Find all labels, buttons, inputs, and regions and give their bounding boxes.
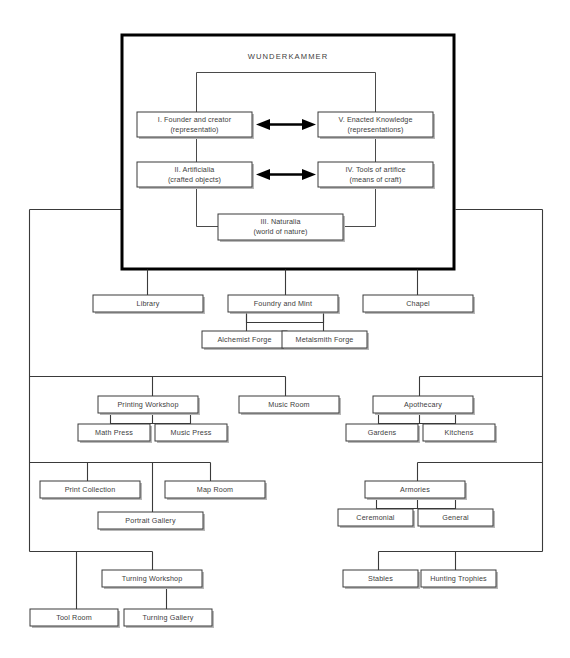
core-link-tools-naturalia <box>345 188 376 227</box>
node-apothecary[interactable]: Apothecary <box>373 396 475 415</box>
node-map-room-label: Map Room <box>197 485 233 494</box>
node-hunting-trophies-label: Hunting Trophies <box>430 574 487 583</box>
node-music-press-label: Music Press <box>171 428 212 437</box>
node-gardens-label: Gardens <box>368 428 397 437</box>
node-math-press[interactable]: Math Press <box>78 424 152 443</box>
core-node-tools-line1: IV. Tools of artifice <box>345 165 405 174</box>
wunderkammer-diagram: WUNDERKAMMER I. Founder and creator (rep… <box>0 0 570 658</box>
bracket-apothecary-children <box>379 415 456 424</box>
node-metalsmith-forge[interactable]: Metalsmith Forge <box>282 331 369 350</box>
core-arrow-artificialia-tools <box>256 169 316 180</box>
bracket-foundry-children <box>247 314 324 323</box>
bracket-printing-children <box>111 415 191 424</box>
node-ceremonial-label: Ceremonial <box>356 513 395 522</box>
wunderkammer-title: WUNDERKAMMER <box>248 52 329 61</box>
core-node-founder-line1: I. Founder and creator <box>158 115 232 124</box>
node-apothecary-label: Apothecary <box>404 400 442 409</box>
node-music-room[interactable]: Music Room <box>239 396 341 415</box>
node-stables[interactable]: Stables <box>343 570 420 589</box>
node-alchemist-forge[interactable]: Alchemist Forge <box>202 331 289 350</box>
core-node-tools-line2: (means of craft) <box>350 175 402 184</box>
core-node-enacted-knowledge[interactable]: V. Enacted Knowledge (representations) <box>318 112 435 139</box>
node-turning-workshop-label: Turning Workshop <box>122 574 183 583</box>
node-map-room[interactable]: Map Room <box>165 481 267 500</box>
node-armories-label: Armories <box>400 485 430 494</box>
node-portrait-gallery-label: Portrait Gallery <box>125 516 176 525</box>
node-chapel-label: Chapel <box>406 299 430 308</box>
node-foundry-label: Foundry and Mint <box>254 299 312 308</box>
core-node-artificialia-line2: (crafted objects) <box>168 175 221 184</box>
bracket-armories-children <box>377 500 456 509</box>
node-tool-room-label: Tool Room <box>56 613 92 622</box>
node-stables-label: Stables <box>368 574 393 583</box>
core-node-tools-of-artifice[interactable]: IV. Tools of artifice (means of craft) <box>318 162 435 189</box>
node-ceremonial[interactable]: Ceremonial <box>338 509 415 528</box>
node-printing-workshop-label: Printing Workshop <box>117 400 178 409</box>
core-node-enacted-line1: V. Enacted Knowledge <box>338 115 412 124</box>
node-print-collection[interactable]: Print Collection <box>40 481 142 500</box>
node-printing-workshop[interactable]: Printing Workshop <box>98 396 200 415</box>
diagram-canvas: WUNDERKAMMER I. Founder and creator (rep… <box>0 0 570 658</box>
core-arrow-founder-enacted <box>256 119 316 130</box>
node-foundry-and-mint[interactable]: Foundry and Mint <box>228 295 340 314</box>
node-hunting-trophies[interactable]: Hunting Trophies <box>421 570 498 589</box>
node-kitchens[interactable]: Kitchens <box>423 424 497 443</box>
core-node-naturalia[interactable]: III. Naturalia (world of nature) <box>218 214 345 242</box>
core-link-artificialia-naturalia <box>197 188 219 227</box>
node-metalsmith-forge-label: Metalsmith Forge <box>296 335 354 344</box>
node-library-label: Library <box>136 299 159 308</box>
core-node-naturalia-line2: (world of nature) <box>253 227 307 236</box>
node-library[interactable]: Library <box>93 295 205 314</box>
node-gardens[interactable]: Gardens <box>346 424 420 443</box>
node-chapel[interactable]: Chapel <box>363 295 475 314</box>
node-tool-room[interactable]: Tool Room <box>30 609 120 628</box>
core-node-enacted-line2: (representations) <box>347 125 403 134</box>
core-node-naturalia-line1: III. Naturalia <box>260 217 300 226</box>
node-general[interactable]: General <box>418 509 495 528</box>
node-turning-gallery-label: Turning Gallery <box>142 613 193 622</box>
node-armories[interactable]: Armories <box>365 481 467 500</box>
core-node-founder-line2: (representatio) <box>170 125 218 134</box>
core-node-artificialia[interactable]: II. Artificialia (crafted objects) <box>137 162 254 189</box>
node-math-press-label: Math Press <box>95 428 133 437</box>
node-print-collection-label: Print Collection <box>65 485 116 494</box>
node-portrait-gallery[interactable]: Portrait Gallery <box>98 512 205 531</box>
node-kitchens-label: Kitchens <box>445 428 474 437</box>
node-general-label: General <box>442 513 469 522</box>
core-top-bracket <box>197 73 376 113</box>
node-music-press[interactable]: Music Press <box>155 424 229 443</box>
node-alchemist-forge-label: Alchemist Forge <box>217 335 271 344</box>
core-node-founder[interactable]: I. Founder and creator (representatio) <box>137 112 254 139</box>
node-turning-gallery[interactable]: Turning Gallery <box>124 609 214 628</box>
node-turning-workshop[interactable]: Turning Workshop <box>102 570 204 589</box>
core-node-artificialia-line1: II. Artificialia <box>175 165 215 174</box>
node-music-room-label: Music Room <box>268 400 309 409</box>
